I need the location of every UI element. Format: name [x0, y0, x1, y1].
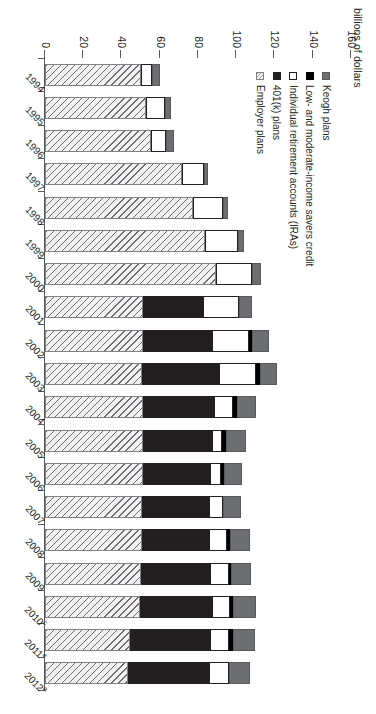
legend-label: Low- and moderate-income savers credit — [305, 85, 316, 266]
bar-segment-ira — [209, 662, 228, 684]
axis-tick — [350, 50, 351, 58]
bar-2007 — [45, 496, 241, 518]
axis-tick — [312, 50, 313, 58]
axis-tick — [159, 50, 160, 58]
bar-segment-keogh — [252, 263, 261, 285]
legend-swatch-icon — [323, 72, 331, 80]
bar-2003 — [45, 363, 277, 385]
bar-segment-ira — [210, 563, 228, 585]
bar-segment-ira — [210, 629, 228, 651]
bar-segment-ira — [151, 130, 166, 152]
bar-segment-savers — [230, 596, 234, 618]
bar-segment-keogh — [204, 163, 208, 185]
bar-segment-employer — [45, 130, 151, 152]
bar-segment-savers — [229, 563, 232, 585]
axis-tick — [274, 50, 275, 58]
axis-tick — [197, 50, 198, 58]
bar-segment-ira — [212, 596, 229, 618]
legend-item-employer: Employer plans — [255, 72, 266, 266]
axis-tick — [44, 50, 45, 58]
bar-segment-keogh — [224, 463, 242, 485]
category-tick — [38, 58, 45, 59]
bar-segment-employer — [45, 163, 182, 185]
bar-2009 — [45, 563, 251, 585]
bar-2011 — [45, 629, 255, 651]
bar-segment-ira — [193, 197, 223, 219]
legend-label: Keogh plans — [321, 85, 332, 141]
bar-segment-keogh — [237, 396, 256, 418]
bar-segment-savers — [229, 629, 234, 651]
bar-segment-employer — [45, 97, 146, 119]
bar-segment-keogh — [229, 662, 250, 684]
axis-tick-label: 140 — [308, 0, 320, 48]
bar-1998 — [45, 197, 228, 219]
axis-tick — [235, 50, 236, 58]
legend-label: Individual retirement accounts (IRAs) — [288, 85, 299, 249]
bar-segment-keogh — [252, 330, 268, 352]
bar-segment-employer — [45, 463, 143, 485]
axis-tick-label: 160 — [346, 0, 358, 48]
chart-frame: billions of dollars 16014012010080604020… — [0, 0, 376, 714]
bar-segment-ira — [205, 230, 238, 252]
bar-2008 — [45, 529, 250, 551]
axis-tick — [82, 50, 83, 58]
bar-segment-employer — [45, 363, 142, 385]
bar-segment-employer — [45, 496, 142, 518]
axis-tick — [121, 50, 122, 58]
chart-legend: Keogh plansLow- and moderate-income save… — [250, 72, 333, 266]
bar-segment-keogh — [223, 496, 241, 518]
bar-segment-keogh — [223, 197, 228, 219]
bar-segment-ira — [203, 296, 239, 318]
axis-tick-label: 0 — [40, 0, 52, 48]
bar-segment-keogh — [239, 296, 252, 318]
legend-swatch-icon — [306, 72, 314, 80]
bar-segment-ira — [141, 64, 152, 86]
rotated-chart-canvas: billions of dollars 16014012010080604020… — [0, 0, 376, 714]
bar-segment-savers — [227, 529, 231, 551]
bar-segment-employer — [45, 296, 143, 318]
bar-segment-ira — [214, 396, 233, 418]
bar-segment-keogh — [260, 363, 277, 385]
legend-label: Employer plans — [255, 85, 266, 154]
bar-2004 — [45, 396, 256, 418]
axis-tick-label: 100 — [231, 0, 243, 48]
bar-segment-ira — [216, 263, 252, 285]
bar-segment-ira — [209, 496, 223, 518]
bar-segment-employer — [45, 430, 143, 452]
bar-2001 — [45, 296, 252, 318]
bar-2012 — [45, 662, 250, 684]
legend-item-k401: 401(k) plans — [272, 72, 283, 266]
legend-item-keogh: Keogh plans — [321, 72, 332, 266]
bar-1994 — [45, 64, 160, 86]
bar-1997 — [45, 163, 208, 185]
bar-segment-employer — [45, 596, 140, 618]
bar-segment-savers — [256, 363, 260, 385]
bar-2002 — [45, 330, 269, 352]
bar-segment-ira — [219, 363, 256, 385]
bar-segment-keogh — [166, 130, 174, 152]
bar-segment-employer — [45, 263, 216, 285]
bar-1996 — [45, 130, 174, 152]
legend-label: 401(k) plans — [272, 85, 283, 140]
bar-segment-keogh — [230, 529, 249, 551]
bar-segment-keogh — [233, 629, 255, 651]
legend-swatch-icon — [257, 72, 265, 80]
axis-tick-label: 120 — [270, 0, 282, 48]
bar-segment-ira — [212, 330, 248, 352]
bar-2005 — [45, 430, 246, 452]
bar-segment-employer — [45, 197, 193, 219]
bar-segment-keogh — [226, 430, 246, 452]
bar-segment-k401 — [141, 563, 211, 585]
bar-segment-k401 — [143, 463, 211, 485]
axis-tick-label: 80 — [193, 0, 205, 48]
bar-segment-employer — [45, 563, 141, 585]
legend-item-savers: Low- and moderate-income savers credit — [305, 72, 316, 266]
bar-segment-k401 — [143, 396, 215, 418]
bar-2006 — [45, 463, 242, 485]
bar-segment-employer — [45, 396, 143, 418]
bar-segment-keogh — [165, 97, 172, 119]
bar-segment-k401 — [143, 296, 202, 318]
bar-segment-k401 — [128, 662, 209, 684]
bar-segment-keogh — [231, 563, 250, 585]
bar-segment-keogh — [152, 64, 160, 86]
